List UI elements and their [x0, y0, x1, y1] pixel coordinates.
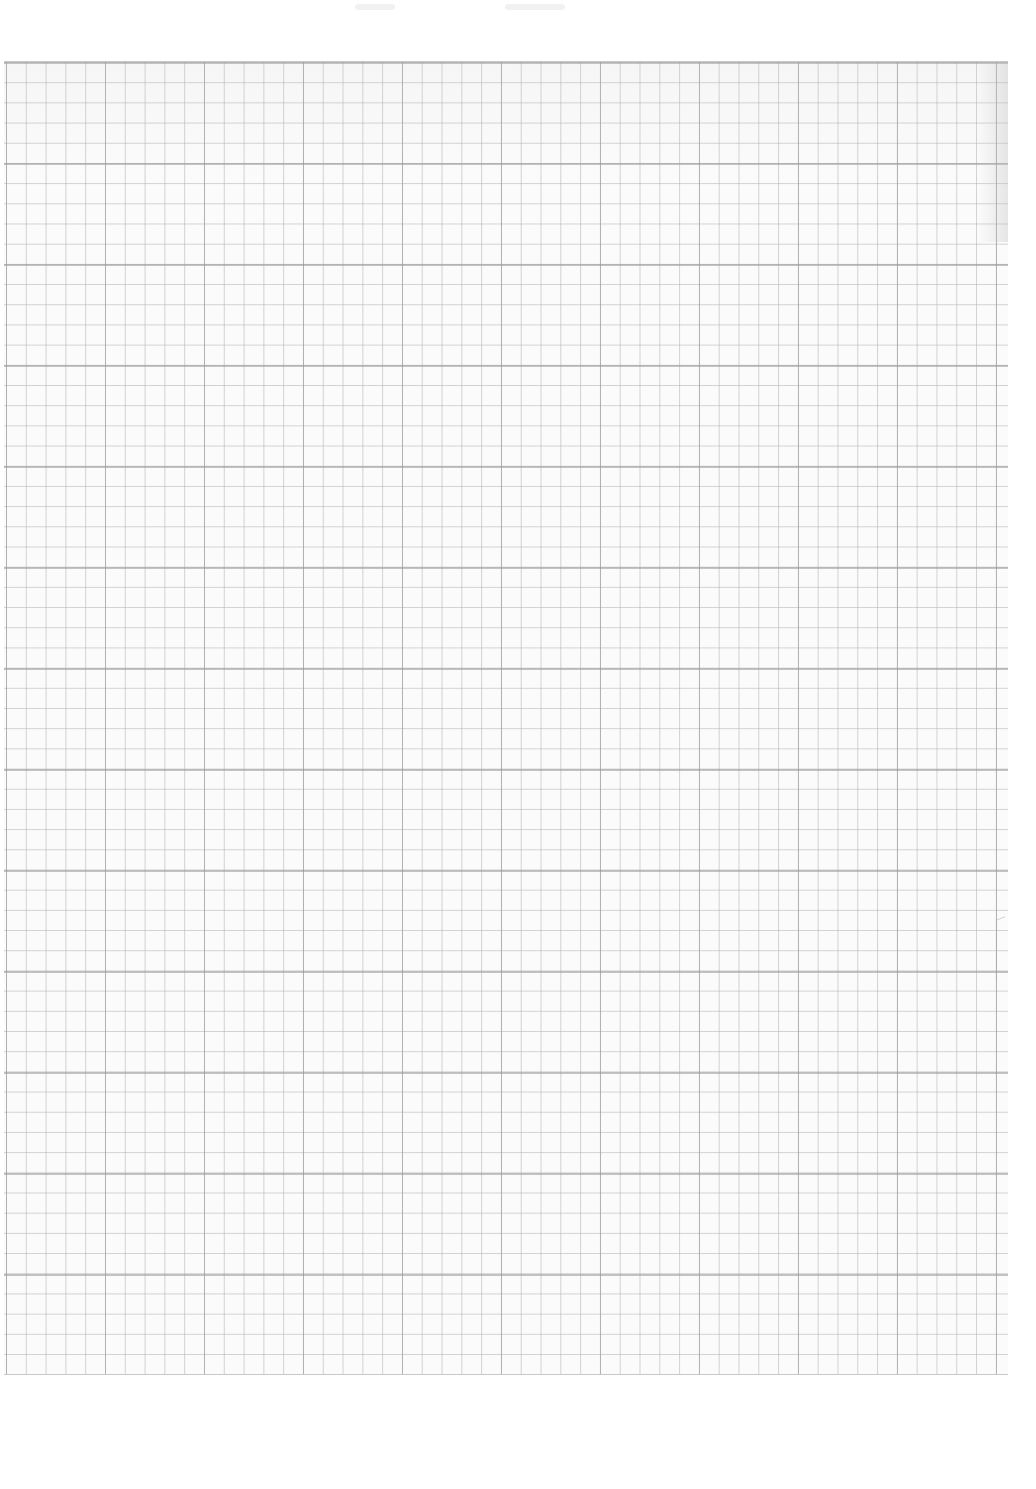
scan-smudge — [505, 4, 565, 10]
sheet-description: Scanned sheet of blank graph paper — [4, 62, 5, 63]
scan-smudge — [355, 4, 395, 10]
scan-shading-right — [978, 62, 1008, 242]
pencil-mark — [996, 916, 1005, 980]
graph-paper-sheet: Scanned sheet of blank graph paper — [4, 61, 1008, 1375]
scan-shading-top — [4, 62, 1008, 182]
